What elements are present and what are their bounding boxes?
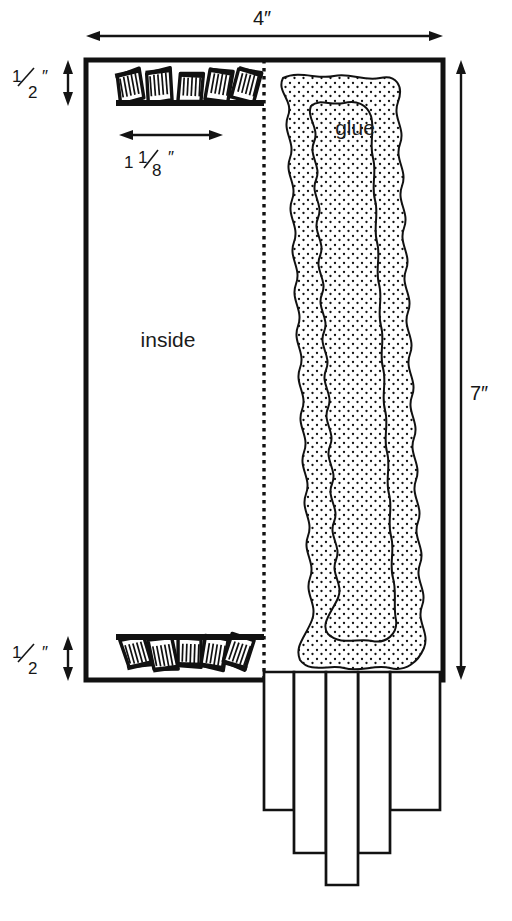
match-strip-5: [390, 672, 440, 810]
double-arrow-vertical-icon-bottom: [63, 636, 73, 681]
match-comb-icon-bottom: [116, 633, 264, 673]
match-strip-1: [264, 672, 294, 810]
fraction-one-half-bottom: 1 2 ″: [12, 643, 48, 678]
match-strip-4: [358, 672, 390, 853]
match-strip-3: [326, 672, 358, 885]
match-strip-2: [294, 672, 326, 853]
top-half-unit: ″: [42, 67, 48, 86]
glue-bead-icon: [255, 60, 450, 685]
comb-width-denominator: 8: [152, 161, 161, 180]
double-arrow-horizontal-icon: [86, 31, 443, 41]
fraction-one-and-one-eighth: 1 1 8 ″: [124, 148, 174, 180]
height-dimension: 7″: [456, 60, 488, 680]
match-comb-icon-top: [114, 66, 264, 106]
bottom-half-unit: ″: [42, 643, 48, 662]
diagram-canvas: 4″ 1 2 ″: [0, 0, 512, 921]
top-half-inch-dimension: 1 2 ″: [12, 60, 73, 106]
inside-label: inside: [141, 328, 196, 351]
bottom-half-inch-dimension: 1 2 ″: [12, 636, 73, 681]
top-half-denominator: 2: [28, 83, 37, 102]
comb-width-whole: 1: [124, 153, 133, 172]
height-dimension-label: 7″: [470, 382, 488, 404]
fraction-one-half-top: 1 2 ″: [12, 67, 48, 102]
comb-width-unit: ″: [168, 148, 174, 167]
comb-width-dimension: 1 1 8 ″: [119, 130, 223, 180]
match-strip-icon-group: [264, 672, 440, 885]
double-arrow-horizontal-icon-comb: [119, 130, 223, 140]
width-dimension-label: 4″: [253, 7, 271, 29]
width-dimension: 4″: [86, 7, 443, 41]
double-arrow-vertical-icon-height: [456, 60, 466, 680]
double-arrow-vertical-icon-top: [63, 60, 73, 106]
bottom-half-denominator: 2: [28, 659, 37, 678]
matchbook-diagram: 4″ 1 2 ″: [0, 0, 512, 921]
glue-label: glue: [335, 116, 375, 139]
